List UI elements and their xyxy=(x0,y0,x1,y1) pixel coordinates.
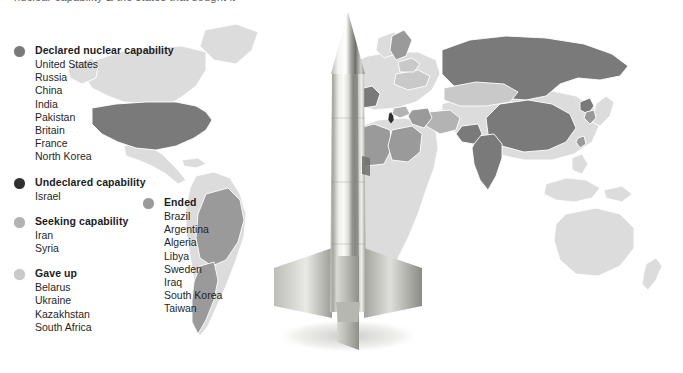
country-caribbean xyxy=(182,158,206,168)
legend-country-list-seeking: Iran Syria xyxy=(14,229,164,255)
legend-heading-seeking: Seeking capability xyxy=(14,215,164,228)
legend-country: Brazil xyxy=(164,210,263,223)
legend-country: Iraq xyxy=(164,276,263,289)
legend-dot-icon-seeking xyxy=(14,217,25,228)
legend-country: Sweden xyxy=(164,263,263,276)
legend-dot-icon-ended xyxy=(143,198,154,209)
legend-country: United States xyxy=(35,58,164,71)
legend-country-list-declared: United States Russia China India Pakista… xyxy=(14,58,164,164)
legend-country-list-ended: Brazil Argentina Algeria Libya Sweden Ir… xyxy=(143,210,263,316)
country-australia xyxy=(554,208,634,276)
legend-heading-label: Undeclared capability xyxy=(35,176,146,188)
legend-heading-label: Ended xyxy=(164,196,197,208)
legend-group-ended: Ended Brazil Argentina Algeria Libya Swe… xyxy=(143,196,263,316)
country-greenland xyxy=(200,24,258,64)
country-philippines xyxy=(572,154,588,174)
missile-nozzle xyxy=(336,302,360,322)
legend-country: Argentina xyxy=(164,223,263,236)
legend-dot-icon-declared xyxy=(14,46,25,57)
legend-country: France xyxy=(35,137,164,150)
legend-right-column: Ended Brazil Argentina Algeria Libya Swe… xyxy=(143,196,263,328)
country-india xyxy=(472,134,502,190)
legend-country: China xyxy=(35,84,164,97)
missile-svg xyxy=(252,6,442,366)
legend-country-list-gave-up: Belarus Ukraine Kazakhstan South Africa xyxy=(14,281,164,334)
legend-left-column: Declared nuclear capability United State… xyxy=(14,44,164,346)
legend-group-gave-up: Gave up Belarus Ukraine Kazakhstan South… xyxy=(14,267,164,334)
legend-heading-undeclared: Undeclared capability xyxy=(14,176,164,189)
legend-heading-declared: Declared nuclear capability xyxy=(14,44,164,57)
legend-heading-gave-up: Gave up xyxy=(14,267,164,280)
legend-country: Russia xyxy=(35,71,164,84)
missile-fin-left xyxy=(274,248,332,318)
legend-group-undeclared: Undeclared capability Israel xyxy=(14,176,164,203)
legend-heading-label: Seeking capability xyxy=(35,215,128,227)
legend-country: North Korea xyxy=(35,150,164,163)
country-kazakhstan xyxy=(444,82,518,106)
legend-country: Britain xyxy=(35,124,164,137)
country-new-zealand xyxy=(642,258,662,290)
country-png xyxy=(604,186,632,202)
country-indonesia xyxy=(544,178,600,202)
country-japan xyxy=(592,96,614,126)
missile-illustration xyxy=(252,6,442,366)
missile-fairing-detail xyxy=(362,156,370,176)
legend-heading-label: Gave up xyxy=(35,267,77,279)
legend-country-list-undeclared: Israel xyxy=(14,190,164,203)
missile-fin-right xyxy=(364,248,422,318)
legend-group-declared: Declared nuclear capability United State… xyxy=(14,44,164,164)
missile-nose-cone xyxy=(331,12,365,74)
legend-country: Taiwan xyxy=(164,302,263,315)
legend-country: Algeria xyxy=(164,236,263,249)
infographic-canvas: nuclear capability & the states that sou… xyxy=(0,0,683,373)
legend-country: Pakistan xyxy=(35,111,164,124)
legend-country: India xyxy=(35,98,164,111)
cut-off-headline-text: nuclear capability & the states that sou… xyxy=(14,0,235,4)
legend-country: South Korea xyxy=(164,289,263,302)
legend-heading-ended: Ended xyxy=(143,196,263,209)
legend-dot-icon-undeclared xyxy=(14,178,25,189)
legend-heading-label: Declared nuclear capability xyxy=(35,44,174,56)
legend-country: Libya xyxy=(164,250,263,263)
legend-group-seeking: Seeking capability Iran Syria xyxy=(14,215,164,255)
legend-dot-icon-gave-up xyxy=(14,269,25,280)
